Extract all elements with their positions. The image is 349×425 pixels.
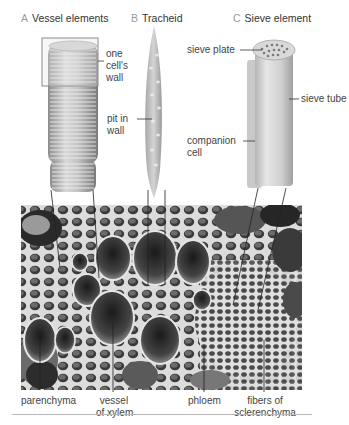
tracheid-illustration bbox=[145, 26, 162, 198]
stem-cross-section-micrograph bbox=[18, 203, 308, 390]
label-line: vessel bbox=[96, 395, 132, 407]
label-vessel-of-xylem: vessel of xylem bbox=[96, 395, 132, 419]
label-line: sclerenchyma bbox=[232, 407, 298, 419]
label-one-cells-wall: one cell's wall bbox=[106, 48, 128, 84]
label-line: pit in bbox=[107, 113, 128, 125]
bottom-rule bbox=[12, 414, 312, 415]
label-companion-cell: companion cell bbox=[187, 135, 236, 159]
label-line: one bbox=[106, 48, 128, 60]
sieve-element-illustration bbox=[247, 40, 295, 188]
label-line: wall bbox=[107, 125, 128, 137]
label-fibers-of-sclerenchyma: fibers of sclerenchyma bbox=[232, 395, 298, 419]
label-line: cell's bbox=[106, 60, 128, 72]
label-pit-in-wall: pit in wall bbox=[107, 113, 128, 137]
one-cell-highlight-box bbox=[42, 38, 98, 86]
diagram-canvas bbox=[0, 0, 349, 425]
label-line: of xylem bbox=[96, 407, 132, 419]
label-parenchyma: parenchyma bbox=[21, 395, 76, 407]
label-sieve-tube: sieve tube bbox=[301, 93, 347, 105]
label-line: fibers of bbox=[232, 395, 298, 407]
label-sieve-plate: sieve plate bbox=[187, 44, 235, 56]
label-line: wall bbox=[106, 72, 128, 84]
label-line: companion bbox=[187, 135, 236, 147]
label-line: cell bbox=[187, 147, 236, 159]
label-phloem: phloem bbox=[188, 395, 221, 407]
